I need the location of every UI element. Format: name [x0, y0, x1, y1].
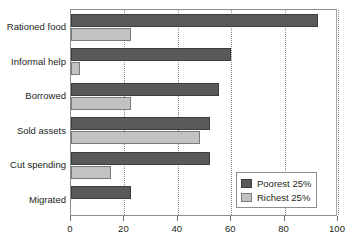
bar — [71, 28, 131, 41]
x-axis-tick — [337, 216, 338, 221]
bar — [71, 14, 318, 27]
x-axis — [70, 216, 337, 222]
y-axis-label: Rationed food — [7, 21, 66, 32]
bar — [71, 186, 131, 199]
legend-swatch-icon — [241, 193, 252, 202]
bar — [71, 117, 210, 130]
x-axis-tick-label: 60 — [225, 223, 236, 235]
x-axis-tick-label: 100 — [329, 223, 345, 235]
y-axis-label: Sold assets — [17, 124, 66, 135]
x-axis-tick-labels: 020406080100 — [0, 223, 354, 239]
legend-item[interactable]: Poorest 25% — [241, 176, 311, 190]
bar — [71, 48, 231, 61]
legend-swatch-icon — [241, 179, 252, 188]
gridline — [338, 10, 339, 215]
x-axis-tick — [177, 216, 178, 221]
bar-chart: Rationed foodInformal helpBorrowedSold a… — [0, 0, 354, 249]
x-axis-tick — [70, 216, 71, 221]
x-axis-tick-label: 0 — [67, 223, 72, 235]
legend-label: Poorest 25% — [257, 178, 311, 189]
x-axis-tick-label: 80 — [278, 223, 289, 235]
bar — [71, 152, 210, 165]
legend-item[interactable]: Richest 25% — [241, 190, 311, 204]
y-axis-label: Informal help — [11, 55, 66, 66]
y-axis-category-labels: Rationed foodInformal helpBorrowedSold a… — [0, 9, 66, 216]
bar — [71, 83, 219, 96]
bar — [71, 166, 111, 179]
y-axis-label: Borrowed — [25, 90, 66, 101]
y-axis-label: Migrated — [29, 193, 66, 204]
bar-group — [71, 114, 336, 149]
x-axis-tick-label: 20 — [118, 223, 129, 235]
bar — [71, 131, 200, 144]
x-axis-tick — [284, 216, 285, 221]
x-axis-tick — [230, 216, 231, 221]
legend-label: Richest 25% — [257, 192, 310, 203]
y-axis-label: Cut spending — [10, 159, 66, 170]
bar-group — [71, 10, 336, 45]
x-axis-tick — [123, 216, 124, 221]
bar-group — [71, 79, 336, 114]
legend: Poorest 25%Richest 25% — [236, 172, 317, 208]
bar — [71, 62, 80, 75]
bar — [71, 97, 131, 110]
bar-group — [71, 45, 336, 80]
x-axis-tick-label: 40 — [172, 223, 183, 235]
